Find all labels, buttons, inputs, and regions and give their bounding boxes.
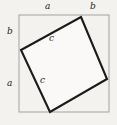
label-c-lower: c	[40, 76, 45, 85]
label-b-left: b	[7, 27, 13, 36]
label-a-left: a	[7, 79, 12, 88]
label-b-top: b	[90, 2, 96, 11]
label-a-top: a	[45, 2, 50, 11]
geometry-figure: a b b a c c	[0, 0, 117, 125]
figure-canvas	[0, 0, 117, 125]
label-c-upper: c	[49, 34, 54, 43]
inner-tilted-square	[21, 17, 107, 112]
